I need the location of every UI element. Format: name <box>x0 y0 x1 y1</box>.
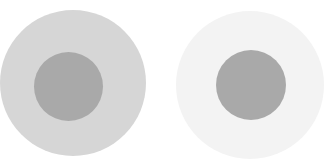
right-inner-circle <box>216 50 286 120</box>
left-inner-circle <box>34 52 103 121</box>
